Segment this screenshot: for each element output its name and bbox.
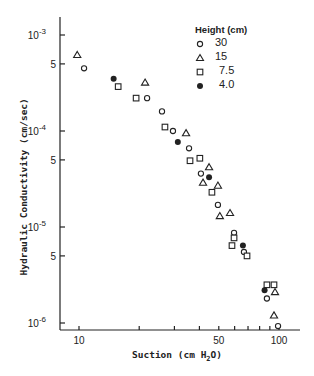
data-point-7-5 bbox=[229, 243, 235, 249]
data-point-15 bbox=[141, 79, 148, 85]
svg-text:10-5: 10-5 bbox=[28, 219, 47, 233]
data-point-30 bbox=[275, 323, 280, 328]
legend-label: 4.0 bbox=[219, 78, 234, 90]
svg-text:100: 100 bbox=[271, 335, 288, 346]
data-point-7-5 bbox=[187, 158, 193, 164]
data-point-30 bbox=[215, 202, 220, 207]
open-triangle-icon bbox=[195, 53, 205, 63]
data-point-30 bbox=[144, 96, 149, 101]
data-point-7-5 bbox=[271, 282, 277, 288]
data-point-7-5 bbox=[162, 124, 168, 130]
data-point-15 bbox=[270, 312, 277, 318]
data-point-4-0 bbox=[206, 174, 212, 180]
data-point-7-5 bbox=[264, 282, 270, 288]
svg-text:10-3: 10-3 bbox=[28, 27, 47, 41]
scatter-plot: 105010010-3510-4510-5510-6 bbox=[0, 0, 314, 376]
data-point-4-0 bbox=[111, 76, 117, 82]
data-point-7-5 bbox=[209, 189, 215, 195]
data-point-15 bbox=[205, 164, 212, 170]
legend: Height (cm) 30 15 7.5 4.0 bbox=[195, 24, 247, 92]
x-axis-label: Suction (cm H2O) bbox=[132, 349, 222, 363]
x-axis-label-prefix: Suction (cm H bbox=[132, 349, 206, 360]
open-circle-icon bbox=[195, 39, 205, 49]
data-point-15 bbox=[182, 130, 189, 136]
svg-text:5: 5 bbox=[50, 59, 56, 70]
data-point-7-5 bbox=[197, 155, 203, 161]
data-points bbox=[74, 51, 281, 328]
y-axis-label: Hydraulic Conductivity (cm/sec) bbox=[18, 106, 29, 276]
data-point-15 bbox=[216, 213, 223, 219]
data-point-7-5 bbox=[115, 84, 121, 90]
data-point-7-5 bbox=[244, 253, 250, 259]
data-point-15 bbox=[74, 51, 81, 57]
svg-text:5: 5 bbox=[50, 251, 56, 262]
data-point-4-0 bbox=[240, 243, 246, 249]
data-point-15 bbox=[226, 209, 233, 215]
filled-circle-icon bbox=[195, 81, 205, 91]
data-point-15 bbox=[199, 179, 206, 185]
svg-text:10-4: 10-4 bbox=[28, 123, 47, 137]
svg-text:50: 50 bbox=[213, 335, 225, 346]
data-point-30 bbox=[159, 109, 164, 114]
svg-text:10-6: 10-6 bbox=[28, 315, 47, 329]
open-square-icon bbox=[195, 67, 205, 77]
data-point-7-5 bbox=[231, 235, 237, 241]
data-point-4-0 bbox=[262, 287, 268, 293]
svg-text:10: 10 bbox=[73, 335, 85, 346]
data-point-15 bbox=[271, 289, 278, 295]
legend-item-30: 30 bbox=[195, 36, 247, 50]
legend-item-4-0: 4.0 bbox=[195, 78, 247, 92]
x-axis-label-suffix: O) bbox=[211, 349, 222, 360]
legend-item-7-5: 7.5 bbox=[195, 64, 247, 78]
data-point-4-0 bbox=[175, 139, 181, 145]
legend-item-15: 15 bbox=[195, 50, 247, 64]
legend-label: 15 bbox=[215, 50, 227, 62]
data-point-30 bbox=[264, 296, 269, 301]
data-point-30 bbox=[81, 66, 86, 71]
data-point-30 bbox=[198, 171, 203, 176]
data-point-15 bbox=[214, 182, 221, 188]
data-point-30 bbox=[186, 146, 191, 151]
legend-label: 7.5 bbox=[219, 64, 234, 76]
tick-labels: 105010010-3510-4510-5510-6 bbox=[28, 27, 288, 346]
svg-text:5: 5 bbox=[50, 155, 56, 166]
data-point-30 bbox=[170, 128, 175, 133]
legend-title: Height (cm) bbox=[195, 24, 247, 35]
data-point-7-5 bbox=[133, 95, 139, 101]
legend-label: 30 bbox=[215, 36, 227, 48]
